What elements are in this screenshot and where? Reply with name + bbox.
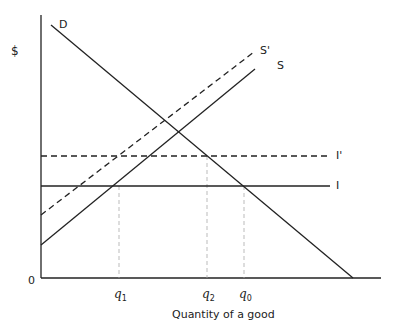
demand-curve [51, 25, 353, 278]
q2-base: q [202, 287, 210, 301]
price-line-label: I [336, 180, 339, 191]
q1-label: q1 [114, 288, 127, 303]
origin-label: 0 [28, 275, 35, 286]
y-axis-label: $ [11, 45, 19, 57]
q1-base: q [114, 287, 122, 301]
supply-demand-diagram [0, 0, 397, 330]
q1-sub: 1 [122, 294, 127, 303]
q0-sub: 0 [247, 294, 252, 303]
q0-base: q [239, 287, 247, 301]
q0-label: q0 [239, 288, 252, 303]
supply-label: S [277, 60, 284, 71]
supply-curve [41, 69, 255, 245]
q2-label: q2 [202, 288, 215, 303]
q2-sub: 2 [210, 294, 215, 303]
x-axis-label: Quantity of a good [172, 309, 275, 320]
supply-shifted-curve [41, 52, 254, 215]
supply-shifted-label: S' [260, 45, 270, 56]
demand-label: D [59, 19, 67, 30]
price-line-shifted-label: I' [336, 150, 342, 161]
